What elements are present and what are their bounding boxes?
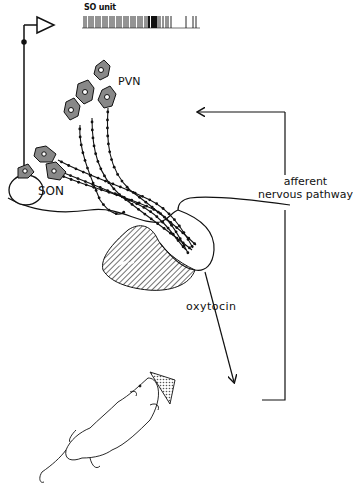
son-label: SON xyxy=(38,184,64,198)
pvn-label: PVN xyxy=(118,75,140,88)
afferent-label-line1: afferent xyxy=(258,175,353,188)
suckling-rat xyxy=(40,372,175,482)
afferent-label-line2: nervous pathway xyxy=(258,188,353,201)
oxytocin-label: oxytocin xyxy=(186,300,237,313)
so-unit-label: SO unit xyxy=(84,3,116,12)
spike-train-trace xyxy=(82,16,200,28)
amplifier-icon xyxy=(37,17,54,33)
oxytocin-arrow xyxy=(205,272,234,382)
afferent-pathway xyxy=(198,112,285,400)
son-neurons xyxy=(18,146,66,180)
axon-tracts xyxy=(52,108,196,253)
afferent-pathway-label: afferent nervous pathway xyxy=(258,175,353,201)
anterior-pituitary xyxy=(103,226,195,291)
